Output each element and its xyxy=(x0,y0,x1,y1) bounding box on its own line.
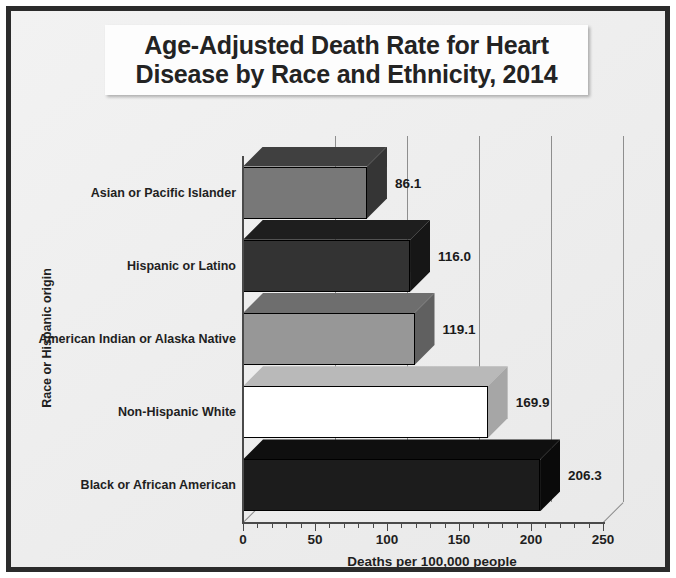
depth-edge-max xyxy=(603,502,624,523)
x-tick-label-200: 200 xyxy=(520,532,543,547)
x-tick-180 xyxy=(502,524,503,528)
bar-top-face-4 xyxy=(243,439,560,459)
bar-front-face-1 xyxy=(243,240,410,292)
x-tick-20 xyxy=(272,524,273,528)
x-tick-130 xyxy=(430,524,431,528)
gridline-250 xyxy=(623,136,624,502)
y-axis-line xyxy=(242,156,244,524)
value-label-4: 206.3 xyxy=(568,468,602,483)
value-label-0: 86.1 xyxy=(395,175,421,190)
x-tick-120 xyxy=(416,524,417,528)
category-label-2: American Indian or Alaska Native xyxy=(22,332,242,346)
bar-top-face-3 xyxy=(243,366,508,386)
value-label-3: 169.9 xyxy=(516,395,550,410)
x-tick-50 xyxy=(315,524,316,531)
x-tick-110 xyxy=(401,524,402,528)
x-tick-label-0: 0 xyxy=(239,532,247,547)
bar-top-face-0 xyxy=(243,147,387,167)
chart-frame: Age-Adjusted Death Rate for Heart Diseas… xyxy=(6,6,670,572)
x-tick-0 xyxy=(243,524,244,531)
category-label-4: Black or African American xyxy=(22,478,242,492)
value-label-2: 119.1 xyxy=(443,322,476,337)
bar-front-face-3 xyxy=(243,386,488,438)
bar-front-face-0 xyxy=(243,167,367,219)
y-axis-title: Race or Hispanic origin xyxy=(40,258,54,418)
x-tick-250 xyxy=(603,524,604,531)
x-tick-80 xyxy=(358,524,359,528)
value-label-1: 116.0 xyxy=(438,248,471,263)
x-tick-40 xyxy=(301,524,302,528)
bar-front-face-2 xyxy=(243,313,415,365)
x-tick-150 xyxy=(459,524,460,531)
bar-top-face-2 xyxy=(243,293,435,313)
x-axis-title: Deaths per 100,000 people xyxy=(242,554,622,569)
x-tick-190 xyxy=(517,524,518,528)
bar-front-face-4 xyxy=(243,459,540,511)
x-tick-label-250: 250 xyxy=(592,532,615,547)
x-tick-60 xyxy=(329,524,330,528)
x-tick-210 xyxy=(545,524,546,528)
x-tick-220 xyxy=(560,524,561,528)
x-tick-100 xyxy=(387,524,388,531)
x-tick-30 xyxy=(286,524,287,528)
bar-top-face-1 xyxy=(243,220,430,240)
x-tick-label-100: 100 xyxy=(376,532,399,547)
x-tick-70 xyxy=(344,524,345,528)
chart-canvas: Age-Adjusted Death Rate for Heart Diseas… xyxy=(11,11,665,567)
x-axis-line xyxy=(242,522,605,524)
x-tick-240 xyxy=(589,524,590,528)
x-tick-160 xyxy=(473,524,474,528)
x-tick-200 xyxy=(531,524,532,531)
category-label-0: Asian or Pacific Islander xyxy=(22,186,242,200)
x-tick-230 xyxy=(574,524,575,528)
plot-area: 86.1116.0119.1169.9206.3 050100150200250… xyxy=(11,11,665,567)
x-tick-10 xyxy=(257,524,258,528)
x-tick-label-150: 150 xyxy=(448,532,471,547)
x-tick-140 xyxy=(445,524,446,528)
category-label-1: Hispanic or Latino xyxy=(22,259,242,273)
category-label-3: Non-Hispanic White xyxy=(22,405,242,419)
x-tick-label-50: 50 xyxy=(307,532,322,547)
x-tick-170 xyxy=(488,524,489,528)
x-tick-90 xyxy=(373,524,374,528)
